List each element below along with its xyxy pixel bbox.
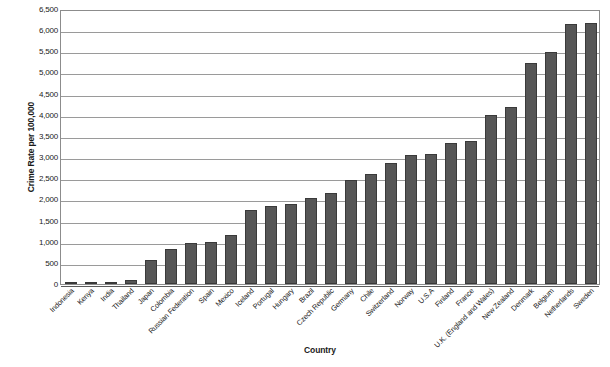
bar bbox=[465, 141, 477, 284]
y-axis-tick-label: 500 bbox=[22, 260, 58, 268]
y-axis-tick-label: 1,000 bbox=[22, 239, 58, 247]
y-axis-tick-label: 6,500 bbox=[22, 6, 58, 14]
y-axis-tick-label: 1,500 bbox=[22, 218, 58, 226]
plot-area bbox=[60, 10, 600, 285]
bar bbox=[105, 282, 117, 284]
y-axis-tick-label: 5,500 bbox=[22, 48, 58, 56]
bar bbox=[325, 193, 337, 284]
bar bbox=[185, 243, 197, 284]
bar bbox=[545, 52, 557, 284]
bar-series bbox=[61, 11, 599, 284]
bar bbox=[585, 23, 597, 284]
x-axis-title: Country bbox=[0, 345, 610, 355]
bar bbox=[305, 198, 317, 284]
y-axis-tick-label: 0 bbox=[22, 281, 58, 289]
bar bbox=[205, 242, 217, 284]
y-axis-tick-label: 3,000 bbox=[22, 154, 58, 162]
bar-chart: Crime Rate per 100,000 05001,0001,5002,0… bbox=[0, 0, 610, 367]
y-axis-tick-label: 4,000 bbox=[22, 112, 58, 120]
bar bbox=[65, 282, 77, 284]
bar bbox=[425, 154, 437, 284]
bar bbox=[525, 63, 537, 284]
bar bbox=[505, 107, 517, 284]
bar bbox=[345, 180, 357, 284]
bar bbox=[225, 235, 237, 284]
y-axis-tick-label: 2,000 bbox=[22, 196, 58, 204]
bar bbox=[125, 280, 137, 284]
y-axis-tick-label: 3,500 bbox=[22, 133, 58, 141]
bar bbox=[365, 174, 377, 284]
y-axis-tick-label: 4,500 bbox=[22, 91, 58, 99]
y-axis-tick-label: 5,000 bbox=[22, 69, 58, 77]
bar bbox=[445, 143, 457, 284]
bar bbox=[285, 204, 297, 284]
bar bbox=[485, 115, 497, 284]
bar bbox=[565, 24, 577, 284]
y-axis-tick-label: 6,000 bbox=[22, 27, 58, 35]
bar bbox=[265, 206, 277, 284]
bar bbox=[165, 249, 177, 284]
y-axis-tick-label: 2,500 bbox=[22, 175, 58, 183]
bar bbox=[405, 155, 417, 284]
bar bbox=[85, 282, 97, 284]
bar bbox=[245, 210, 257, 284]
bar bbox=[145, 260, 157, 284]
y-axis-tick-labels: 05001,0001,5002,0002,5003,0003,5004,0004… bbox=[22, 10, 58, 285]
bar bbox=[385, 163, 397, 284]
